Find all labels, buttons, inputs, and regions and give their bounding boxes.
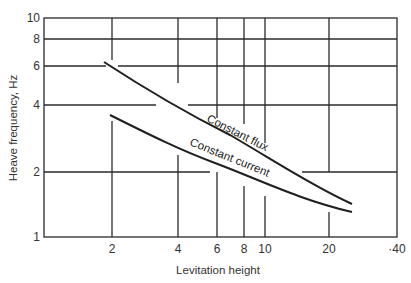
y-tick-2: 2 [33,165,40,179]
x-tick-8: 8 [241,242,248,256]
y-tick-1: 1 [33,230,40,244]
x-tick-2: 2 [109,242,116,256]
x-tick-20: 20 [322,242,336,256]
x-tick-40: ·40 [388,242,406,256]
y-tick-4: 4 [33,98,40,112]
y-tick-10: 10 [27,11,41,25]
y-axis-label: Heave frequency, Hz [7,74,19,181]
x-tick-10: 10 [258,242,272,256]
y-tick-6: 6 [33,59,40,73]
x-axis-label: Levitation height [176,264,261,276]
x-tick-6: 6 [214,242,221,256]
x-tick-4: 4 [175,242,182,256]
x-axis-ticks: 2 4 6 8 10 20 ·40 [109,242,406,256]
y-tick-8: 8 [33,32,40,46]
chart: Constant flux Constant current 10 8 6 4 … [0,0,411,283]
y-axis-ticks: 10 8 6 4 2 1 [27,11,41,244]
